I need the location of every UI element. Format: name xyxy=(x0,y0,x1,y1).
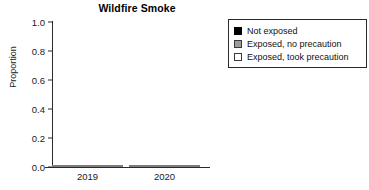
bar-segment-2020-exposed-no-precaution[interactable] xyxy=(129,165,200,167)
legend-label: Exposed, took precaution xyxy=(247,52,349,62)
legend-item-not-exposed[interactable]: Not exposed xyxy=(234,24,361,37)
x-tick-label-2019: 2019 xyxy=(52,171,123,182)
legend-label: Exposed, no precaution xyxy=(247,39,342,49)
y-tick-0_0: 0.0 xyxy=(32,162,52,173)
x-tick-label-2020: 2020 xyxy=(129,171,200,182)
y-tick-0_4: 0.4 xyxy=(32,104,52,115)
legend: Not exposed Exposed, no precaution Expos… xyxy=(228,19,367,68)
tick-mark-icon xyxy=(48,80,52,81)
y-tick-0_2: 0.2 xyxy=(32,133,52,144)
wildfire-smoke-chart: Wildfire Smoke Proportion 1.0 0.8 0.6 0.… xyxy=(0,0,369,190)
tick-mark-icon xyxy=(48,22,52,23)
tick-mark-icon xyxy=(48,109,52,110)
tick-mark-icon xyxy=(48,138,52,139)
legend-label: Not exposed xyxy=(247,26,298,36)
legend-item-exposed-took-precaution[interactable]: Exposed, took precaution xyxy=(234,50,361,63)
y-tick-1_0: 1.0 xyxy=(32,17,52,28)
legend-item-exposed-no-precaution[interactable]: Exposed, no precaution xyxy=(234,37,361,50)
y-axis-label: Proportion xyxy=(8,32,18,102)
y-tick-0_8: 0.8 xyxy=(32,46,52,57)
legend-swatch-icon-exposed-took-precaution xyxy=(234,53,242,61)
legend-swatch-icon-exposed-no-precaution xyxy=(234,40,242,48)
chart-title: Wildfire Smoke xyxy=(62,2,212,14)
tick-mark-icon xyxy=(48,51,52,52)
plot-area: 1.0 0.8 0.6 0.4 0.2 0.0 xyxy=(52,22,200,167)
legend-swatch-icon-not-exposed xyxy=(234,27,242,35)
x-axis-line xyxy=(45,167,210,168)
bar-segment-2019-exposed-no-precaution[interactable] xyxy=(52,165,123,167)
y-tick-0_6: 0.6 xyxy=(32,75,52,86)
